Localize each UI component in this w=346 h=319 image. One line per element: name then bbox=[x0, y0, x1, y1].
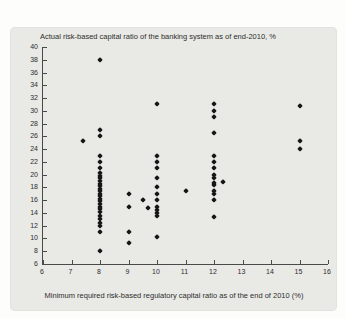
data-point bbox=[211, 153, 217, 159]
data-point bbox=[297, 138, 303, 144]
data-point bbox=[126, 191, 132, 197]
data-point bbox=[80, 138, 86, 144]
data-point bbox=[211, 130, 217, 136]
y-tick-label: 16 bbox=[12, 196, 38, 204]
y-tick-label: 14 bbox=[12, 209, 38, 217]
y-tick bbox=[43, 238, 47, 239]
chart-title: Actual risk-based capital ratio of the b… bbox=[40, 32, 330, 41]
data-point bbox=[297, 146, 303, 152]
x-tick-label: 11 bbox=[175, 268, 195, 276]
data-point bbox=[297, 103, 303, 109]
y-tick bbox=[43, 162, 47, 163]
data-point bbox=[211, 197, 217, 203]
data-point bbox=[126, 240, 132, 246]
y-tick bbox=[43, 73, 47, 74]
x-tick bbox=[214, 260, 215, 264]
data-point bbox=[211, 101, 217, 107]
y-tick-label: 24 bbox=[12, 145, 38, 153]
x-tick bbox=[43, 260, 44, 264]
y-tick-label: 18 bbox=[12, 183, 38, 191]
data-point bbox=[211, 191, 217, 197]
y-tick bbox=[43, 124, 47, 125]
data-point bbox=[97, 127, 103, 133]
data-point bbox=[154, 153, 160, 159]
y-tick-label: 8 bbox=[12, 247, 38, 255]
x-tick bbox=[157, 260, 158, 264]
data-point bbox=[97, 57, 103, 63]
plot-area bbox=[42, 47, 328, 265]
y-tick bbox=[43, 264, 47, 265]
data-point bbox=[154, 234, 160, 240]
x-tick-label: 9 bbox=[118, 268, 138, 276]
data-point bbox=[97, 133, 103, 139]
data-point bbox=[97, 159, 103, 165]
y-tick-label: 12 bbox=[12, 222, 38, 230]
data-point bbox=[183, 188, 189, 194]
data-point bbox=[154, 165, 160, 171]
data-point bbox=[211, 214, 217, 220]
y-tick bbox=[43, 111, 47, 112]
data-point bbox=[140, 197, 146, 203]
y-tick-label: 26 bbox=[12, 132, 38, 140]
y-tick bbox=[43, 251, 47, 252]
data-point bbox=[97, 229, 103, 235]
y-tick bbox=[43, 85, 47, 86]
data-point bbox=[97, 153, 103, 159]
data-point bbox=[154, 213, 160, 219]
y-tick bbox=[43, 60, 47, 61]
x-tick bbox=[100, 260, 101, 264]
data-point bbox=[154, 197, 160, 203]
x-tick-label: 15 bbox=[289, 268, 309, 276]
x-tick-label: 8 bbox=[89, 268, 109, 276]
data-point bbox=[211, 159, 217, 165]
x-axis-title: Minimum required risk-based regulatory c… bbox=[14, 291, 334, 300]
y-tick bbox=[43, 47, 47, 48]
x-tick-label: 10 bbox=[146, 268, 166, 276]
data-point bbox=[145, 206, 151, 212]
x-tick bbox=[72, 260, 73, 264]
y-tick-label: 10 bbox=[12, 234, 38, 242]
y-tick bbox=[43, 98, 47, 99]
y-tick bbox=[43, 175, 47, 176]
x-tick-label: 12 bbox=[203, 268, 223, 276]
data-point bbox=[154, 184, 160, 190]
y-tick-label: 38 bbox=[12, 56, 38, 64]
y-tick bbox=[43, 213, 47, 214]
data-point bbox=[211, 108, 217, 114]
y-tick-label: 20 bbox=[12, 171, 38, 179]
scatter-chart-figure: Actual risk-based capital ratio of the b… bbox=[0, 0, 346, 319]
x-tick bbox=[328, 260, 329, 264]
x-tick bbox=[271, 260, 272, 264]
data-point bbox=[154, 175, 160, 181]
x-tick-label: 13 bbox=[232, 268, 252, 276]
y-tick bbox=[43, 226, 47, 227]
y-tick-label: 32 bbox=[12, 94, 38, 102]
y-tick bbox=[43, 200, 47, 201]
y-tick-label: 40 bbox=[12, 43, 38, 51]
data-point bbox=[126, 204, 132, 210]
y-tick-label: 22 bbox=[12, 158, 38, 166]
data-point bbox=[211, 165, 217, 171]
x-tick bbox=[300, 260, 301, 264]
y-tick bbox=[43, 149, 47, 150]
x-tick-label: 6 bbox=[32, 268, 52, 276]
y-tick-label: 28 bbox=[12, 120, 38, 128]
data-point bbox=[154, 191, 160, 197]
data-point bbox=[97, 248, 103, 254]
data-point bbox=[211, 114, 217, 120]
x-tick-label: 14 bbox=[260, 268, 280, 276]
y-tick-label: 6 bbox=[12, 260, 38, 268]
x-tick bbox=[186, 260, 187, 264]
x-tick bbox=[129, 260, 130, 264]
y-tick-label: 30 bbox=[12, 107, 38, 115]
data-point bbox=[126, 229, 132, 235]
x-tick-label: 16 bbox=[317, 268, 337, 276]
data-point bbox=[154, 159, 160, 165]
y-tick bbox=[43, 187, 47, 188]
data-point bbox=[154, 101, 160, 107]
y-tick-label: 36 bbox=[12, 69, 38, 77]
y-tick bbox=[43, 136, 47, 137]
data-point bbox=[220, 179, 226, 185]
x-tick bbox=[243, 260, 244, 264]
y-tick-label: 34 bbox=[12, 81, 38, 89]
